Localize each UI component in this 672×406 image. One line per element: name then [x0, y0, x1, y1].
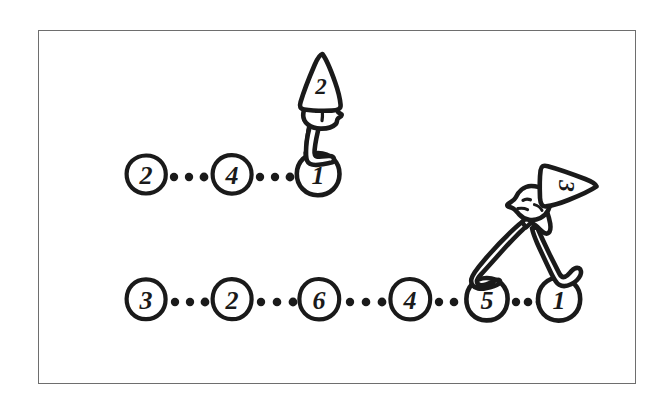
- upper-node-1: 4: [213, 155, 252, 193]
- lower-node-3: 4: [390, 279, 430, 319]
- lower-node-2: 6: [299, 279, 339, 319]
- lower-dot-group-2: [257, 298, 298, 307]
- lower-node-chain: 3 2 6 4 5: [127, 278, 581, 321]
- lower-node-3-label: 4: [403, 286, 417, 315]
- striding-gnome-figure: 3: [471, 166, 596, 289]
- lower-node-0: 3: [127, 279, 166, 319]
- standing-gnome-figure: 2: [300, 54, 342, 165]
- lower-node-5-label: 1: [553, 286, 566, 315]
- upper-dot-group-1: [170, 173, 209, 182]
- upper-dot-group-2: [256, 173, 295, 182]
- drawing-canvas: 2 4 1: [0, 0, 672, 406]
- lower-node-0-label: 3: [139, 286, 153, 315]
- lower-dot-group-3: [346, 298, 387, 307]
- lower-dot-group-1: [171, 298, 210, 307]
- lower-node-2-label: 6: [313, 286, 326, 315]
- striding-figure-hat-label: 3: [554, 179, 579, 192]
- lower-node-1: 2: [213, 279, 252, 319]
- standing-figure-hat-label: 2: [314, 74, 327, 99]
- upper-node-1-label: 4: [225, 161, 239, 190]
- upper-node-0-label: 2: [139, 161, 153, 190]
- illustration-root: 2 4 1: [0, 0, 672, 406]
- lower-node-1-label: 2: [225, 286, 239, 315]
- upper-node-0: 2: [127, 155, 166, 193]
